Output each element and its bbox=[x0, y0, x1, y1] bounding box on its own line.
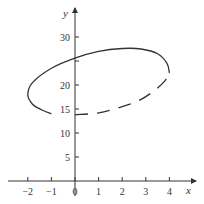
x-tick-label: −1 bbox=[46, 186, 57, 197]
x-tick-label: 0 bbox=[73, 186, 78, 197]
x-axis-label: x bbox=[185, 184, 191, 196]
x-tick-label: −2 bbox=[22, 186, 33, 197]
y-axis-ticks: 510152030 bbox=[60, 32, 79, 163]
x-tick-label: 2 bbox=[120, 186, 125, 197]
y-tick-label: 15 bbox=[60, 104, 70, 115]
y-axis-label: y bbox=[62, 7, 68, 19]
curve-solid-segment bbox=[28, 48, 170, 114]
y-tick-label: 5 bbox=[65, 152, 70, 163]
curve-dashed-segment bbox=[75, 73, 169, 115]
x-tick-label: 1 bbox=[96, 186, 101, 197]
y-tick-label: 10 bbox=[60, 128, 70, 139]
chart-container: −2−101234 510152030 x y bbox=[0, 0, 204, 204]
x-tick-label: 3 bbox=[143, 186, 148, 197]
y-tick-label: 30 bbox=[60, 32, 70, 43]
curve-series bbox=[28, 48, 170, 115]
x-tick-label: 4 bbox=[167, 186, 172, 197]
x-axis-ticks: −2−101234 bbox=[22, 177, 171, 197]
chart-plot: −2−101234 510152030 x y bbox=[0, 0, 204, 204]
y-tick-label: 20 bbox=[60, 80, 70, 91]
